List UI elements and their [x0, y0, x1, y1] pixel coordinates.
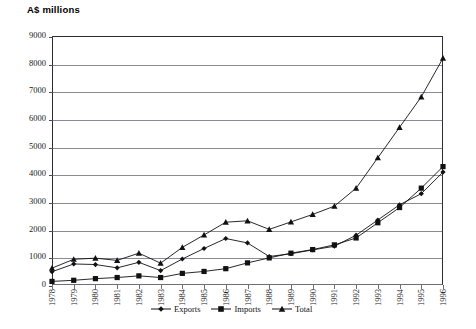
y-axis-tick	[49, 148, 53, 149]
y-axis-tick-label: 7000	[0, 86, 46, 95]
y-axis-tick	[49, 120, 53, 121]
x-axis-tick-label: 1995	[416, 289, 427, 306]
diamond-marker-icon	[150, 304, 172, 314]
y-axis-tick	[49, 175, 53, 176]
x-axis-tick-label: 1979	[69, 289, 80, 306]
gridline	[53, 120, 442, 121]
y-axis-tick-label: 3000	[0, 197, 46, 206]
chart-legend: ExportsImportsTotal	[150, 304, 312, 314]
x-axis-tick-label: 1978	[47, 289, 58, 306]
y-axis-tick-label: 9000	[0, 31, 46, 40]
x-axis-tick-label: 1994	[395, 289, 406, 306]
y-axis-tick-label: 0	[0, 280, 46, 289]
triangle-marker-icon	[271, 304, 293, 314]
y-axis-title: A$ millions	[27, 4, 80, 15]
legend-label: Exports	[174, 304, 200, 314]
square-marker-icon	[210, 304, 232, 314]
y-axis-tick-label: 1000	[0, 252, 46, 261]
x-axis-tick-label: 1993	[373, 289, 384, 306]
y-axis-tick	[49, 65, 53, 66]
legend-item-imports[interactable]: Imports	[210, 304, 260, 314]
legend-label: Total	[295, 304, 312, 314]
y-axis-tick	[49, 231, 53, 232]
gridline	[53, 203, 442, 204]
x-axis-tick-label: 1992	[351, 289, 362, 306]
y-axis-tick	[49, 258, 53, 259]
gridline	[53, 92, 442, 93]
gridline	[53, 175, 442, 176]
y-axis-tick-label: 8000	[0, 59, 46, 68]
chart-root: A$ millions 0100020003000400050006000700…	[0, 0, 476, 329]
y-axis-tick-label: 6000	[0, 114, 46, 123]
plot-area	[52, 36, 443, 285]
gridline	[53, 65, 442, 66]
x-axis-tick-label: 1980	[90, 289, 101, 306]
y-axis-tick	[49, 203, 53, 204]
gridline	[53, 258, 442, 259]
legend-item-exports[interactable]: Exports	[150, 304, 200, 314]
x-axis-tick-label: 1982	[134, 289, 145, 306]
gridline	[53, 148, 442, 149]
x-axis-tick-label: 1991	[329, 289, 340, 306]
gridline	[53, 231, 442, 232]
x-axis-tick-label: 1996	[438, 289, 449, 306]
y-axis-tick	[49, 92, 53, 93]
legend-label: Imports	[234, 304, 260, 314]
x-axis-tick-label: 1981	[112, 289, 123, 306]
legend-item-total[interactable]: Total	[271, 304, 312, 314]
y-axis-tick-label: 2000	[0, 225, 46, 234]
y-axis-tick-label: 5000	[0, 142, 46, 151]
y-axis-tick	[49, 37, 53, 38]
y-axis-tick-label: 4000	[0, 169, 46, 178]
